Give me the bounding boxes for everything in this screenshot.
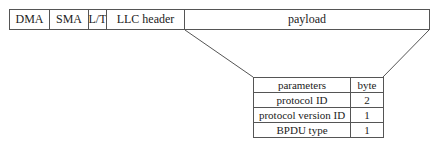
table-header-row: parameters byte <box>254 78 384 93</box>
row-parameter: protocol ID <box>254 93 351 108</box>
right-expansion-line <box>383 30 429 77</box>
left-expansion-line <box>185 30 253 77</box>
table-row: protocol ID 2 <box>254 93 384 108</box>
header-byte: byte <box>351 78 384 93</box>
header-parameters: parameters <box>254 78 351 93</box>
row-byte: 1 <box>351 108 384 123</box>
row-parameter: protocol version ID <box>254 108 351 123</box>
row-byte: 2 <box>351 93 384 108</box>
table-row: BPDU type 1 <box>254 123 384 138</box>
row-parameter: BPDU type <box>254 123 351 138</box>
table-row: protocol version ID 1 <box>254 108 384 123</box>
row-byte: 1 <box>351 123 384 138</box>
payload-parameters-table: parameters byte protocol ID 2 protocol v… <box>253 77 384 138</box>
